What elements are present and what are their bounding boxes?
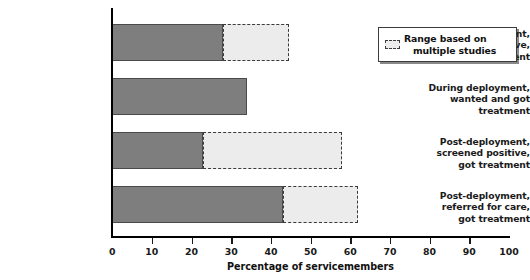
category-label-3: Post-deployment, referred for care, got … <box>426 190 530 224</box>
category-label-line: Post-deployment, <box>426 136 530 147</box>
bar-chart: During deployment, screened positive, go… <box>0 0 530 280</box>
x-tick-label-60: 60 <box>335 246 365 257</box>
x-tick-40 <box>271 238 272 244</box>
x-axis-title: Percentage of servicemembers <box>111 261 510 272</box>
bar-0 <box>112 24 223 61</box>
bar-3 <box>112 186 283 223</box>
bar-2 <box>112 132 203 169</box>
x-tick-10 <box>152 238 153 244</box>
x-tick-label-40: 40 <box>256 246 286 257</box>
x-tick-60 <box>350 238 351 244</box>
category-label-line: got treatment <box>426 213 530 224</box>
x-tick-label-90: 90 <box>454 246 484 257</box>
x-tick-label-20: 20 <box>177 246 207 257</box>
x-tick-label-30: 30 <box>216 246 246 257</box>
legend-label-line: Range based on <box>404 33 496 45</box>
x-tick-label-10: 10 <box>137 246 167 257</box>
category-label-line: referred for care, <box>426 201 530 212</box>
legend-swatch-range-icon <box>385 40 400 49</box>
category-label-line: Post-deployment, <box>426 190 530 201</box>
category-label-line: wanted and got <box>426 93 530 104</box>
chart-legend: Range based on multiple studies <box>378 27 517 62</box>
x-tick-label-70: 70 <box>375 246 405 257</box>
category-label-line: treatment <box>426 105 530 116</box>
category-label-line: During deployment, <box>426 82 530 93</box>
bar-1 <box>112 78 247 115</box>
x-tick-70 <box>390 238 391 244</box>
x-tick-label-0: 0 <box>97 246 127 257</box>
category-label-line: screened positive, <box>426 147 530 158</box>
bar-range-0 <box>223 24 288 61</box>
bar-range-2 <box>203 132 342 169</box>
x-tick-30 <box>231 238 232 244</box>
x-tick-20 <box>192 238 193 244</box>
x-tick-50 <box>311 238 312 244</box>
x-tick-label-80: 80 <box>415 246 445 257</box>
x-tick-90 <box>469 238 470 244</box>
legend-label-line: multiple studies <box>404 45 496 57</box>
category-label-1: During deployment, wanted and got treatm… <box>426 82 530 116</box>
bar-range-3 <box>283 186 358 223</box>
x-tick-80 <box>430 238 431 244</box>
x-tick-label-50: 50 <box>296 246 326 257</box>
y-axis-line <box>111 8 113 238</box>
category-label-line: got treatment <box>426 159 530 170</box>
x-tick-label-100: 100 <box>494 246 524 257</box>
legend-label-range: Range based on multiple studies <box>404 33 496 56</box>
category-label-2: Post-deployment, screened positive, got … <box>426 136 530 170</box>
